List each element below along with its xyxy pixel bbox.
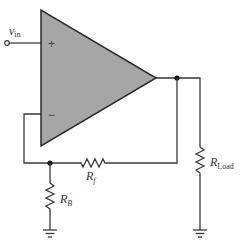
opamp-triangle-icon: [41, 10, 156, 146]
rload-label: RLoad: [209, 155, 234, 171]
resistor-icon: [50, 159, 108, 167]
output-wire: [156, 78, 200, 147]
resistor-icon: [196, 147, 204, 230]
vin-label: vin: [9, 24, 21, 39]
rf-label: Rf: [85, 169, 97, 185]
inverting-input-sign: −: [48, 108, 55, 122]
resistor-icon: [46, 163, 54, 230]
noninverting-input-sign: +: [48, 37, 55, 51]
ground-icon: [193, 230, 207, 237]
terminal-icon: [5, 41, 10, 46]
rb-label: RB: [59, 192, 72, 208]
circuit-diagram: + − vin Rf RB RLoad: [0, 0, 244, 245]
ground-icon: [43, 230, 57, 237]
